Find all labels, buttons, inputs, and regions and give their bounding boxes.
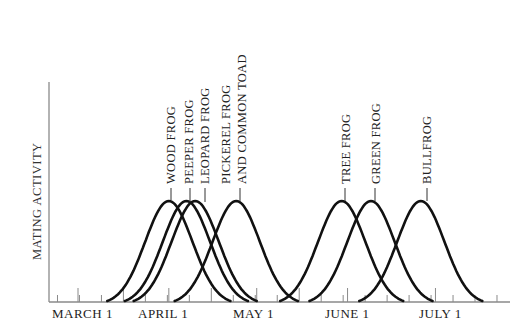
species-label-tree-frog: TREE FROG	[339, 114, 353, 201]
curve-peeper-frog	[125, 201, 248, 301]
species-label-pickerel-frog-common-toad: PICKEREL FROG AND COMMON TOAD	[219, 54, 249, 201]
species-label-leopard-frog: LEOPARD FROG	[198, 87, 212, 202]
curve-pickerel-frog-and-common-toad	[175, 201, 298, 301]
curve-bullfrog	[359, 201, 482, 301]
mating-activity-chart: MATING ACTIVITY MARCH 1 APRIL 1 MAY 1 JU…	[0, 0, 525, 334]
svg-text:GREEN FROG: GREEN FROG	[369, 103, 383, 184]
svg-text:TREE FROG: TREE FROG	[339, 114, 353, 184]
svg-text:AND COMMON TOAD: AND COMMON TOAD	[235, 54, 249, 184]
svg-text:WOOD FROG: WOOD FROG	[164, 106, 178, 184]
species-label-bullfrog: BULLFROG	[420, 116, 434, 201]
x-tick-label-april: APRIL 1	[138, 306, 188, 321]
x-tick-label-may: MAY 1	[233, 306, 274, 321]
svg-text:PICKEREL FROG: PICKEREL FROG	[219, 84, 233, 184]
species-label-peeper-frog: PEEPER FROG	[182, 99, 196, 202]
x-tick-label-march: MARCH 1	[52, 306, 113, 321]
svg-text:BULLFROG: BULLFROG	[420, 116, 434, 184]
x-tick-label-july: JULY 1	[419, 306, 462, 321]
species-label-wood-frog: WOOD FROG	[164, 106, 178, 200]
species-label-green-frog: GREEN FROG	[369, 103, 383, 201]
species-curves	[107, 201, 482, 301]
svg-text:LEOPARD FROG: LEOPARD FROG	[198, 87, 212, 184]
x-tick-label-june: JUNE 1	[325, 306, 370, 321]
y-axis-label: MATING ACTIVITY	[30, 142, 44, 260]
svg-text:PEEPER FROG: PEEPER FROG	[182, 99, 196, 184]
